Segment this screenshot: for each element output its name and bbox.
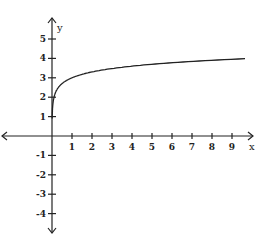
function-curve xyxy=(52,59,245,119)
x-tick-label: 7 xyxy=(189,142,195,152)
y-tick-label: 2 xyxy=(40,92,46,102)
y-tick-label: -2 xyxy=(36,170,46,180)
y-tick-label: 1 xyxy=(40,112,46,122)
y-tick-label: 4 xyxy=(40,53,46,63)
y-tick-label: -4 xyxy=(36,209,46,219)
y-tick-label: -1 xyxy=(36,150,46,160)
x-tick-label: 2 xyxy=(89,142,95,152)
y-tick-label: 3 xyxy=(40,73,46,83)
x-tick-label: 5 xyxy=(149,142,155,152)
x-tick-label: 1 xyxy=(69,142,75,152)
x-tick-label: 4 xyxy=(129,142,135,152)
x-tick-label: 6 xyxy=(169,142,175,152)
x-axis-label: x xyxy=(249,141,255,152)
x-tick-label: 9 xyxy=(229,142,235,152)
y-tick-label: 5 xyxy=(40,34,46,44)
y-axis-label: y xyxy=(56,22,63,33)
y-tick-label: -3 xyxy=(36,189,46,199)
chart: 12345678954321-1-2-3-4xy xyxy=(0,0,271,244)
x-tick-label: 8 xyxy=(209,142,215,152)
x-tick-label: 3 xyxy=(109,142,115,152)
